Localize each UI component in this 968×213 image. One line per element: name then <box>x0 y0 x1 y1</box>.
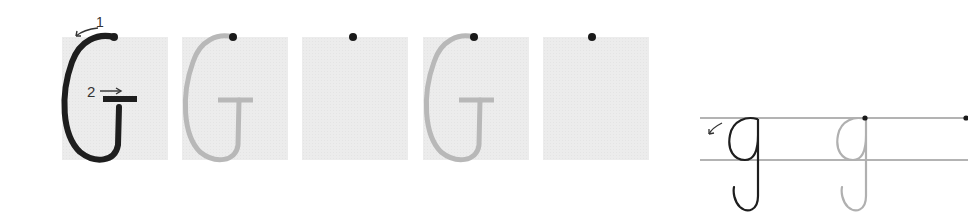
trace-uppercase-g-2 <box>426 33 494 160</box>
stroke-2-arrow-icon <box>100 88 121 94</box>
trace-uppercase-g-1 <box>185 33 253 160</box>
start-dot-icon <box>588 33 596 41</box>
stroke-1-label: 1 <box>96 14 104 30</box>
letter-strokes <box>0 0 968 213</box>
stroke-2-label: 2 <box>87 83 95 100</box>
lowercase-start-arrow-icon <box>709 123 722 134</box>
model-uppercase-g <box>64 33 137 160</box>
start-dot-icon <box>349 33 357 41</box>
start-dot-icon <box>963 115 968 120</box>
trace-lowercase-g <box>837 115 867 210</box>
model-lowercase-g <box>729 118 758 210</box>
